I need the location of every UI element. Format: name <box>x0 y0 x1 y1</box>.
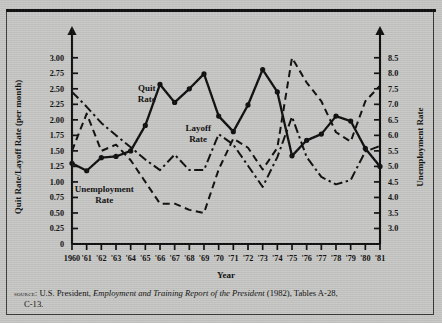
source-continuation: C-13. <box>14 299 430 310</box>
source-prefix: source: <box>14 289 37 298</box>
figure-border <box>6 12 434 315</box>
source-note: source: U.S. President, Employment and T… <box>14 288 430 310</box>
source-text-before: U.S. President, <box>37 288 93 298</box>
source-title: Employment and Training Report of the Pr… <box>93 288 265 298</box>
source-text-after: (1982), Tables A-28, <box>265 288 338 298</box>
